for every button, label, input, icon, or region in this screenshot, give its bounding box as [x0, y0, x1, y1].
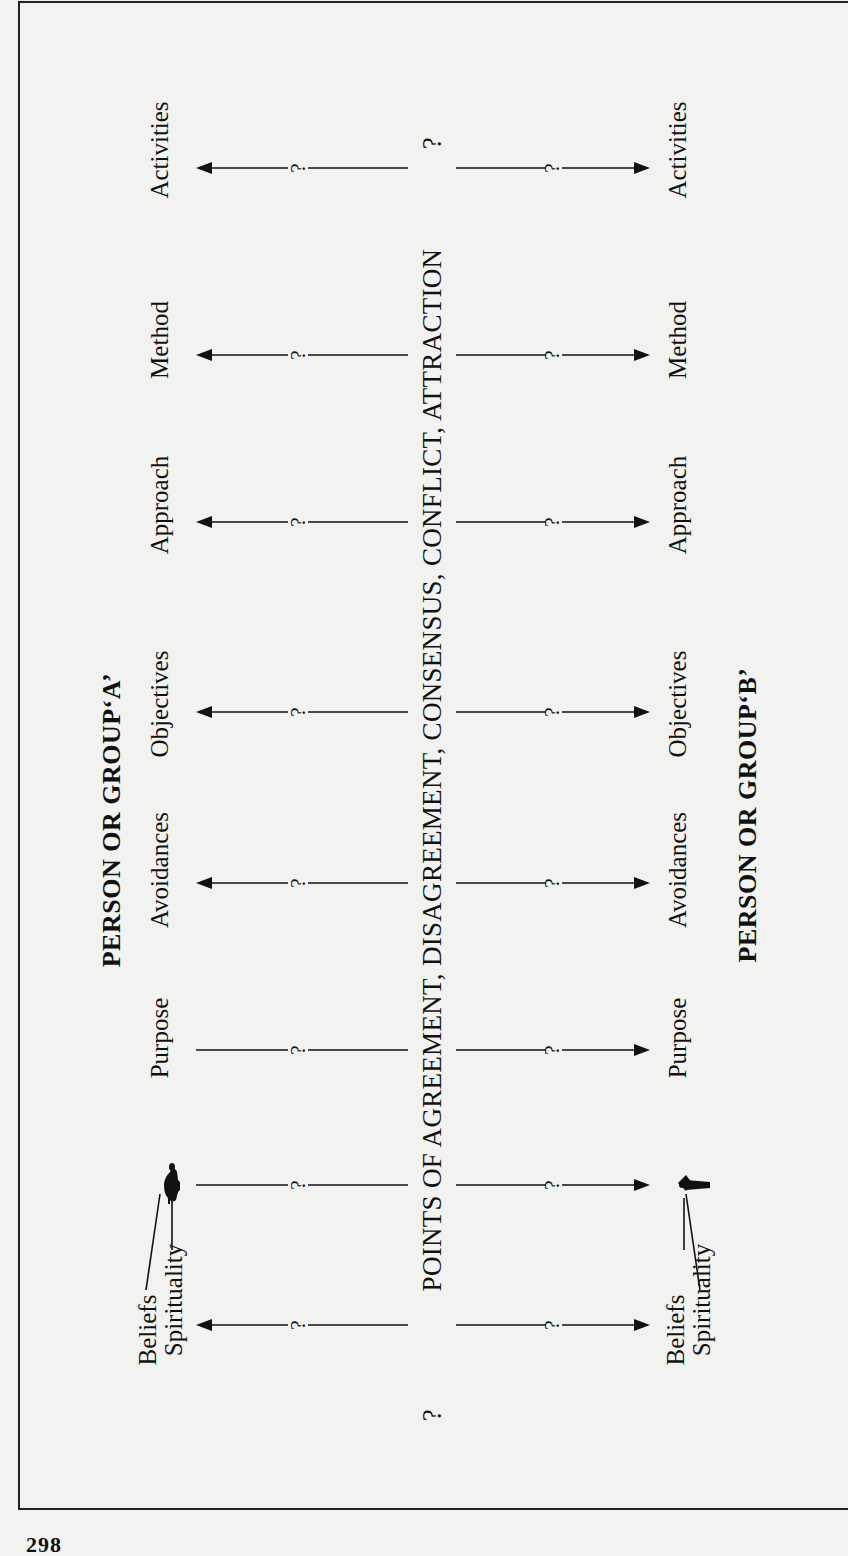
center-title-suffix-mark: ?: [417, 137, 448, 149]
group-a-label-avoidances: Avoidances: [146, 812, 174, 928]
question-mark-beliefs-right: ?: [539, 1320, 565, 1330]
question-mark-figure-right: ?: [539, 1180, 565, 1190]
group-a-heading: PERSON OR GROUP‘A’: [97, 673, 127, 968]
question-mark-avoidances-left: ?: [285, 878, 311, 888]
group-a-label-method: Method: [146, 301, 174, 379]
question-mark-method-left: ?: [285, 350, 311, 360]
question-mark-activities-right: ?: [539, 163, 565, 173]
page-number: 298: [26, 1532, 62, 1556]
group-b-label-method: Method: [664, 301, 692, 379]
group-a-label-approach: Approach: [146, 456, 174, 555]
question-mark-purpose-left: ?: [285, 1045, 311, 1055]
question-mark-approach-left: ?: [285, 517, 311, 527]
question-mark-objectives-right: ?: [539, 707, 565, 717]
center-title-prefix-mark: ?: [417, 1409, 448, 1421]
question-mark-beliefs-left: ?: [285, 1320, 311, 1330]
group-b-heading: PERSON OR GROUP‘B’: [733, 668, 763, 963]
center-title: POINTS OF AGREEMENT, DISAGREEMENT, CONSE…: [417, 249, 448, 1292]
group-a-label-spirituality: Spirituality: [160, 1244, 188, 1357]
group-b-label-spirituality: Spirituality: [688, 1244, 716, 1357]
group-b-label-avoidances: Avoidances: [664, 812, 692, 928]
group-b-label-purpose: Purpose: [664, 998, 692, 1079]
group-a-label-purpose: Purpose: [146, 998, 174, 1079]
question-mark-method-right: ?: [539, 350, 565, 360]
group-b-label-approach: Approach: [664, 456, 692, 555]
question-mark-approach-right: ?: [539, 517, 565, 527]
person-b-icon: [678, 1175, 710, 1191]
group-a-label-objectives: Objectives: [146, 651, 174, 758]
group-b-label-activities: Activities: [664, 101, 692, 198]
group-a-label-activities: Activities: [146, 101, 174, 198]
question-mark-avoidances-right: ?: [539, 878, 565, 888]
question-mark-purpose-right: ?: [539, 1045, 565, 1055]
group-b-label-objectives: Objectives: [664, 651, 692, 758]
question-mark-activities-left: ?: [285, 163, 311, 173]
group-b-label-beliefs: Beliefs: [662, 1295, 690, 1366]
question-mark-objectives-left: ?: [285, 707, 311, 717]
group-a-label-beliefs: Beliefs: [134, 1295, 162, 1366]
person-a-icon: [164, 1163, 180, 1204]
question-mark-figure-left: ?: [285, 1180, 311, 1190]
